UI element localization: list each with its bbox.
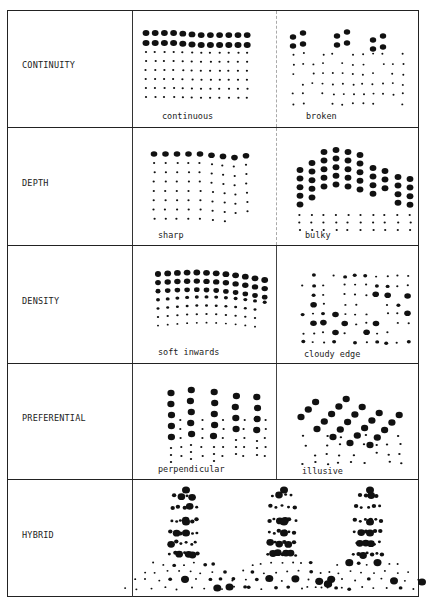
row-hybrid: HYBRID [8, 479, 418, 597]
typology-table: CONTINUITY continuous broken DEPTH sharp… [7, 10, 419, 597]
row-label-cell: DEPTH [8, 128, 133, 245]
example-label-bulky: bulky [305, 230, 331, 240]
row-label: DEPTH [8, 178, 49, 188]
row-label-cell: CONTINUITY [8, 11, 133, 127]
row-label-cell: HYBRID [8, 480, 133, 597]
row-label: CONTINUITY [8, 60, 75, 70]
examples-cell: soft inwards cloudy edge [132, 246, 418, 363]
examples-cell: perpendicular illusive [132, 364, 418, 479]
example-label-cloudy-edge: cloudy edge [304, 349, 360, 359]
examples-cell [132, 480, 418, 597]
row-density: DENSITY soft inwards cloudy edge [8, 245, 418, 363]
row-label-cell: DENSITY [8, 246, 133, 363]
example-label-sharp: sharp [158, 230, 184, 240]
row-label-cell: PREFERENTIAL [8, 364, 133, 479]
examples-cell: sharp bulky [132, 128, 418, 245]
examples-cell: continuous broken [132, 11, 418, 127]
broken-dot-pattern [132, 11, 412, 127]
row-label: PREFERENTIAL [8, 413, 86, 423]
row-continuity: CONTINUITY continuous broken [8, 11, 418, 127]
bulky-dot-pattern [132, 128, 412, 246]
example-label-soft-inwards: soft inwards [158, 347, 219, 357]
example-label-continuous: continuous [162, 111, 213, 121]
illusive-dot-pattern [132, 364, 412, 480]
row-label: HYBRID [8, 530, 54, 540]
example-label-perpendicular: perpendicular [158, 464, 225, 474]
row-preferential: PREFERENTIAL perpendicular illusive [8, 363, 418, 479]
hybrid-dot-pattern [132, 480, 422, 598]
row-label: DENSITY [8, 296, 59, 306]
row-depth: DEPTH sharp bulky [8, 127, 418, 245]
example-label-broken: broken [306, 111, 337, 121]
example-label-illusive: illusive [302, 466, 343, 476]
